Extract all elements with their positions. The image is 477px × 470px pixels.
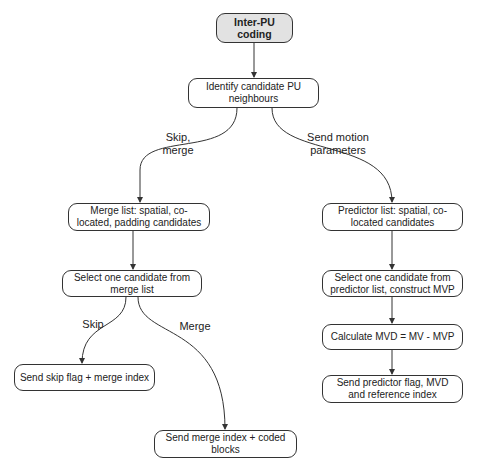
node-predictor-list: Predictor list: spatial, co-located cand… — [322, 203, 463, 231]
node-text: Select one candidate from merge list — [67, 272, 197, 296]
node-merge-list: Merge list: spatial, co-located, padding… — [68, 203, 210, 231]
node-text: Send skip flag + merge index — [20, 372, 149, 384]
node-text: Identify candidate PU neighbours — [193, 81, 314, 105]
node-select-merge: Select one candidate from merge list — [62, 270, 202, 297]
node-text: Predictor list: spatial, co-located cand… — [327, 205, 458, 229]
node-text: Send merge index + coded blocks — [159, 432, 292, 456]
node-send-predictor: Send predictor flag, MVD and reference i… — [322, 375, 463, 403]
edge-label-skip: Skip — [78, 318, 108, 331]
node-text: Merge list: spatial, co-located, padding… — [73, 205, 205, 229]
edge-label-send-motion: Send motion parameters — [298, 131, 378, 157]
label-line: parameters — [298, 144, 378, 157]
label-line: merge — [158, 144, 198, 157]
edge-label-skip-merge: Skip, merge — [158, 131, 198, 157]
node-text: Calculate MVD = MV - MVP — [331, 331, 455, 343]
node-text: Send predictor flag, MVD and reference i… — [327, 377, 458, 401]
label-line: Skip, — [158, 131, 198, 144]
node-text: Inter-PU coding — [221, 16, 288, 40]
flowchart-canvas: Inter-PU coding Identify candidate PU ne… — [0, 0, 477, 470]
node-select-predictor: Select one candidate from predictor list… — [322, 270, 463, 297]
label-line: Send motion — [298, 131, 378, 144]
edge-label-merge: Merge — [175, 320, 215, 333]
node-send-skip: Send skip flag + merge index — [14, 364, 155, 391]
node-calculate-mvd: Calculate MVD = MV - MVP — [322, 324, 463, 350]
node-inter-pu-coding: Inter-PU coding — [216, 13, 293, 43]
edge-select-merge — [138, 297, 225, 429]
node-identify-candidates: Identify candidate PU neighbours — [188, 78, 319, 108]
node-text: Select one candidate from predictor list… — [327, 272, 458, 296]
node-send-merge: Send merge index + coded blocks — [154, 430, 297, 458]
